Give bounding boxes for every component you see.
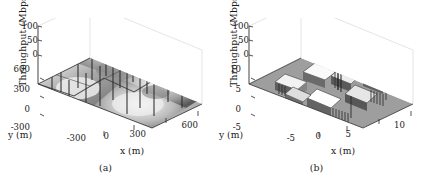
panel-a-y-tick-600: 600	[4, 64, 30, 74]
panel-a-y-tick-0: 0	[4, 104, 30, 114]
panel-b-y-tick-5: 5	[219, 84, 241, 94]
panel-a-caption: (a)	[0, 162, 211, 173]
figure-panel-b: Throughput (Mbps) y (m) x (m) 100 50 0 1…	[211, 0, 422, 190]
panel-b-caption: (b)	[211, 162, 422, 173]
panel-b-x-axis-title: x (m)	[331, 145, 355, 156]
panel-a-surface-plot	[34, 18, 206, 140]
panel-a-y-tick-300: 300	[4, 84, 30, 94]
panel-b-y-tick-neg5: -5	[216, 122, 241, 132]
panel-a-x-axis-title: x (m)	[120, 145, 144, 156]
panel-a-y-tick-neg300: -300	[1, 122, 30, 132]
panel-b-y-tick-0: 0	[219, 104, 241, 114]
figure-panel-a: Throughput (Mbps) y (m) x (m) 100 50 0 6…	[0, 0, 211, 190]
panel-b-y-tick-10: 10	[219, 64, 241, 74]
panel-b-surface-plot	[245, 18, 417, 140]
